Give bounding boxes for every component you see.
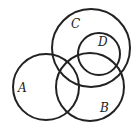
- label-b: B: [99, 101, 109, 115]
- label-c: C: [71, 17, 80, 31]
- venn-diagram-canvas: C D A B: [0, 0, 140, 129]
- label-d: D: [97, 35, 108, 49]
- venn-diagram: C D A B: [0, 0, 140, 129]
- label-a: A: [17, 81, 27, 95]
